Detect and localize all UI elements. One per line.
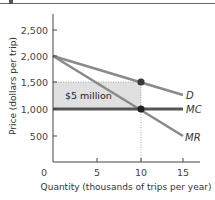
demand-point <box>137 78 144 85</box>
marginal-cost-label: MC <box>186 104 202 115</box>
y-tick-label: 1,500 <box>21 77 48 88</box>
x-ticks <box>97 158 183 162</box>
x-tick-label: 0 <box>41 167 47 178</box>
y-tick-label: 500 <box>30 131 48 142</box>
y-axis-label: Price (dollars per trip) <box>8 37 18 135</box>
profit-area-label: $5 million <box>65 90 112 101</box>
demand-label: D <box>186 90 194 101</box>
x-axis-label: Quantity (thousands of trips per year) <box>41 182 212 192</box>
y-tick-label: 2,500 <box>21 25 48 36</box>
chart: 2,500 2,000 1,500 1,000 500 0 5 10 15 Qu… <box>0 0 215 200</box>
marginal-revenue-label: MR <box>185 132 201 143</box>
x-tick-label: 5 <box>94 167 100 178</box>
mr-mc-point <box>137 105 144 112</box>
x-tick-label: 10 <box>135 167 147 178</box>
y-tick-label: 1,000 <box>21 104 48 115</box>
y-tick-label: 2,000 <box>21 51 48 62</box>
x-tick-label: 15 <box>177 167 189 178</box>
